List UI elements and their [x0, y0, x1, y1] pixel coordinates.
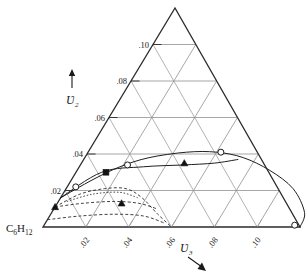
left-axis-arrow-head	[69, 69, 75, 76]
ternary-plot-svg: .02.04.06.08.10.02.04.06.08.10Ʋ2Ʋ3C6H12	[0, 0, 308, 275]
marker-filled-square-1	[103, 169, 109, 175]
left-axis-tick-4: .10	[138, 40, 149, 50]
bottom-axis-tick-4: .10	[248, 235, 262, 250]
bottom-axis-arrow-head	[198, 263, 207, 272]
bottom-axis-title: Ʋ	[180, 241, 189, 255]
curve-tie-line-solid	[61, 159, 238, 197]
marker-filled-triangle-1	[181, 160, 188, 166]
left-axis-tick-2: .06	[94, 113, 105, 123]
left-axis-title: Ʋ	[66, 93, 75, 107]
marker-open-circle-3	[218, 149, 224, 155]
marker-filled-triangle-3	[118, 200, 125, 206]
bottom-axis-tick-3: .08	[205, 235, 219, 250]
bottom-axis-tick-2: .06	[163, 235, 177, 250]
bottom-axis-title-subscript: 3	[188, 249, 193, 257]
left-axis-title-subscript: 2	[75, 101, 79, 109]
left-axis-tick-1: .04	[72, 149, 83, 159]
ternary-diagram-figure: .02.04.06.08.10.02.04.06.08.10Ʋ2Ʋ3C6H12	[0, 0, 308, 275]
bottom-axis-tick-1: .04	[120, 234, 135, 249]
curve-layer	[47, 151, 304, 227]
bottom-axis-tick-0: .02	[77, 235, 91, 250]
corner-label-c6h12: C6H12	[6, 222, 33, 237]
marker-open-circle-4	[292, 222, 298, 228]
left-axis-tick-3: .08	[116, 76, 127, 86]
marker-layer	[52, 149, 298, 228]
bottom-axis-arrow-shaft	[188, 257, 202, 267]
curve-tie-line-dashed-lower	[47, 214, 165, 223]
grid-layer	[65, 45, 279, 228]
left-axis-tick-0: .02	[50, 186, 61, 196]
marker-open-circle-1	[73, 184, 79, 190]
marker-open-circle-2	[125, 162, 131, 168]
